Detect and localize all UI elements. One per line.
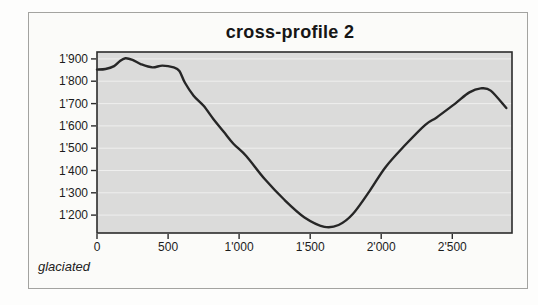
plot-area xyxy=(97,52,512,233)
y-tick-label: 1'900 xyxy=(59,52,88,66)
x-tick-label: 2'500 xyxy=(438,240,467,254)
x-tick-label: 1'000 xyxy=(225,240,254,254)
y-tick-label: 1'700 xyxy=(59,97,88,111)
x-tick-label: 1'500 xyxy=(296,240,325,254)
x-tick-label: 0 xyxy=(94,240,101,254)
y-tick-label: 1'300 xyxy=(59,186,88,200)
x-tick-label: 2'000 xyxy=(367,240,396,254)
y-tick-label: 1'400 xyxy=(59,164,88,178)
x-tick-label: 500 xyxy=(158,240,178,254)
y-tick-label: 1'500 xyxy=(59,141,88,155)
caption-glaciated: glaciated xyxy=(38,259,91,274)
chart-title: cross-profile 2 xyxy=(226,22,355,42)
y-tick-label: 1'600 xyxy=(59,119,88,133)
scanned-figure-page: cross-profile 2 1'9001'8001'7001'6001'50… xyxy=(0,0,538,305)
cross-profile-chart: cross-profile 2 1'9001'8001'7001'6001'50… xyxy=(0,0,538,305)
y-tick-label: 1'200 xyxy=(59,208,88,222)
y-tick-label: 1'800 xyxy=(59,74,88,88)
